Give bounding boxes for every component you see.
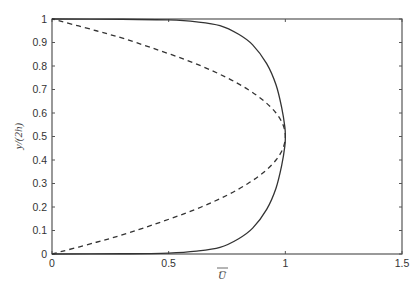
y-tick-label: 0.1	[32, 224, 47, 236]
y-axis-ticks: 00.10.20.30.40.50.60.70.80.91	[32, 13, 402, 260]
x-axis-label: U̅	[218, 269, 227, 281]
x-tick-label: 0	[49, 257, 55, 269]
plot-area	[52, 19, 402, 254]
y-tick-label: 0.8	[32, 60, 47, 72]
x-axis-ticks: 00.511.5	[49, 19, 409, 269]
x-tick-label: 0.5	[161, 257, 176, 269]
y-tick-label: 0	[41, 248, 47, 260]
y-tick-label: 1	[41, 13, 47, 25]
laminar-profile-curve	[52, 19, 285, 254]
axes-frame	[52, 19, 402, 254]
x-tick-label: 1	[282, 257, 288, 269]
y-axis-label: y/(2h)	[12, 123, 25, 151]
y-tick-label: 0.2	[32, 201, 47, 213]
data-series	[52, 19, 285, 254]
y-tick-label: 0.4	[32, 154, 47, 166]
y-tick-label: 0.3	[32, 177, 47, 189]
velocity-profile-chart: 00.511.5 00.10.20.30.40.50.60.70.80.91 U…	[0, 0, 420, 295]
y-tick-label: 0.9	[32, 36, 47, 48]
y-tick-label: 0.6	[32, 107, 47, 119]
y-tick-label: 0.7	[32, 83, 47, 95]
x-tick-label: 1.5	[395, 257, 410, 269]
y-tick-label: 0.5	[32, 130, 47, 142]
